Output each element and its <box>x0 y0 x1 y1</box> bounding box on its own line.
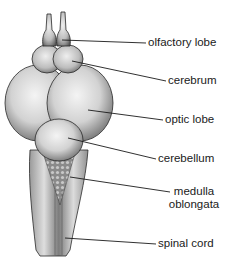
label-medulla-oblongata: medulla oblongata <box>166 185 222 211</box>
leader-spinal-cord <box>65 238 156 244</box>
label-medulla-line2: oblongata <box>166 198 222 211</box>
label-cerebellum: cerebellum <box>158 152 214 165</box>
label-cerebrum: cerebrum <box>168 74 217 87</box>
cerebrum-right-shape <box>53 45 83 73</box>
leader-olfactory-lobe <box>62 40 146 43</box>
label-spinal-cord: spinal cord <box>158 237 214 250</box>
label-medulla-line1: medulla <box>166 185 222 198</box>
medulla-spinal-cord-shape <box>29 150 88 256</box>
olfactory-lobes-shape <box>43 12 71 46</box>
leader-medulla-oblongata <box>70 177 170 192</box>
label-olfactory-lobe: olfactory lobe <box>148 36 216 49</box>
label-optic-lobe: optic lobe <box>165 113 214 126</box>
